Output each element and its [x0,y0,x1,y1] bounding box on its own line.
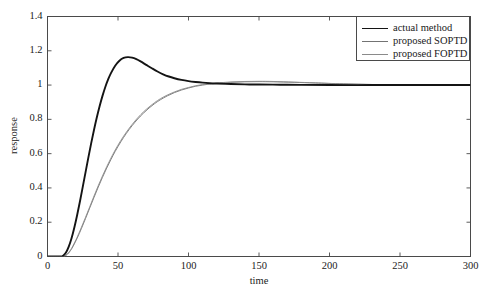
x-tick-label: 300 [451,261,491,272]
figure-container: response time 00.20.40.60.811.21.4 05010… [0,0,492,293]
y-tick-label: 0.6 [29,148,42,159]
legend: actual methodproposed SOPTDproposed FOPT… [356,16,470,61]
legend-line-sample-icon [362,22,388,34]
legend-item: actual method [362,21,452,34]
x-tick-label: 250 [380,261,420,272]
legend-item-label: proposed SOPTD [393,35,467,47]
x-tick-label: 150 [239,261,279,272]
legend-item: proposed FOPTD [362,47,467,60]
y-tick-label: 0.8 [29,113,42,124]
x-axis-title: time [229,275,289,286]
y-tick-label: 0.2 [29,216,42,227]
y-axis-title: response [8,105,19,165]
legend-item-label: actual method [393,22,452,34]
y-tick-label: 0 [37,251,42,262]
legend-item-label: proposed FOPTD [393,48,467,60]
y-tick-label: 1.4 [29,11,42,22]
y-tick-label: 1.2 [29,45,42,56]
y-tick-label: 1 [37,79,42,90]
x-tick-label: 100 [169,261,209,272]
x-tick-label: 0 [28,261,68,272]
x-tick-label: 200 [310,261,350,272]
legend-item: proposed SOPTD [362,34,467,47]
legend-line-sample-icon [362,35,388,47]
y-tick-label: 0.4 [29,182,42,193]
x-tick-label: 50 [98,261,138,272]
legend-line-sample-icon [362,48,388,60]
